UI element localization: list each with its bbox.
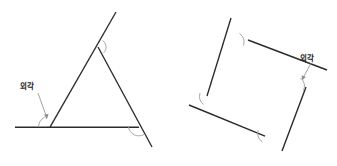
- triangle-right-side-extended: [98, 47, 152, 147]
- triangle-figure: 외각: [15, 12, 152, 147]
- quad-side-sp-extended: [207, 18, 231, 96]
- triangle-label-leader: [38, 93, 47, 117]
- triangle-exterior-angle-arc-a: [39, 117, 45, 127]
- figure-root: 외각 외각: [0, 0, 337, 166]
- triangle-label-arrowhead: [44, 114, 48, 119]
- quad-angle-arc-p: [240, 34, 244, 46]
- quad-side-pq-extended: [248, 40, 327, 70]
- triangle-angle-arc-b: [103, 41, 107, 54]
- quad-label-leader: [303, 63, 311, 78]
- quad-side-qr-extended: [282, 87, 306, 151]
- quad-angle-arc-s: [200, 93, 204, 105]
- quad-angle-arc-r: [258, 131, 263, 143]
- quadrilateral-figure: 외각: [189, 18, 327, 151]
- quad-exterior-angle-label: 외각: [300, 53, 314, 63]
- exterior-angles-figure: 외각 외각: [0, 0, 337, 166]
- triangle-left-side-extended: [50, 12, 116, 127]
- quad-side-rs-extended: [189, 105, 265, 136]
- triangle-exterior-angle-label: 외각: [20, 81, 34, 91]
